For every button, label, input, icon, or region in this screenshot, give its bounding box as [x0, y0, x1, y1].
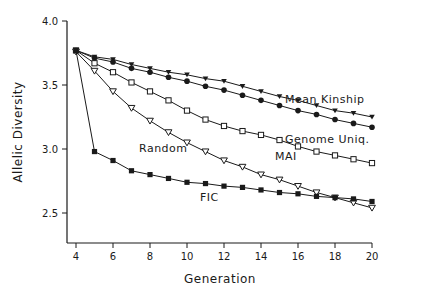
- y-axis-title: Allelic Diversity: [11, 81, 25, 182]
- series-mai: [73, 48, 374, 166]
- filled-circle-marker: [129, 66, 135, 72]
- open-triangle-marker: [165, 130, 172, 136]
- filled-square-marker: [295, 191, 300, 196]
- filled-square-marker: [258, 187, 263, 192]
- open-square-marker: [129, 80, 134, 85]
- open-square-marker: [332, 153, 337, 158]
- filled-square-marker: [332, 195, 337, 200]
- x-tick-label: 20: [366, 251, 379, 262]
- filled-triangle-marker: [369, 115, 375, 120]
- series-label-mai: MAI: [275, 150, 297, 163]
- x-tick-label: 14: [255, 251, 268, 262]
- y-tick-label: 2.5: [42, 208, 58, 219]
- filled-square-marker: [92, 149, 97, 154]
- filled-square-marker: [277, 190, 282, 195]
- filled-circle-marker: [295, 108, 301, 114]
- filled-square-marker: [129, 168, 134, 173]
- open-square-marker: [166, 98, 171, 103]
- open-square-marker: [277, 137, 282, 142]
- x-tick-label: 16: [292, 251, 305, 262]
- series-label-fic: FIC: [200, 191, 219, 204]
- filled-circle-marker: [332, 117, 338, 123]
- open-square-marker: [221, 123, 226, 128]
- filled-square-marker: [369, 199, 374, 204]
- filled-circle-marker: [369, 124, 375, 130]
- open-square-marker: [258, 132, 263, 137]
- chart-container: 2.53.03.54.0468101214161820 Mean Kinship…: [0, 0, 426, 298]
- y-tick-label: 3.5: [42, 80, 58, 91]
- filled-circle-marker: [351, 121, 357, 127]
- series-genome-uniq: [73, 48, 375, 130]
- open-square-marker: [184, 108, 189, 113]
- series-label-genome-uniq: Genome Uniq.: [285, 133, 370, 146]
- open-square-marker: [147, 89, 152, 94]
- filled-circle-marker: [184, 78, 190, 84]
- filled-circle-marker: [314, 112, 320, 118]
- filled-circle-marker: [240, 92, 246, 98]
- filled-circle-marker: [277, 103, 283, 109]
- open-square-marker: [369, 160, 374, 165]
- series-mean-kinship: [73, 48, 375, 119]
- open-square-marker: [203, 117, 208, 122]
- filled-circle-marker: [258, 98, 264, 104]
- line-chart: 2.53.03.54.0468101214161820 Mean Kinship…: [0, 0, 426, 298]
- open-square-marker: [240, 128, 245, 133]
- filled-circle-marker: [110, 59, 116, 65]
- open-square-marker: [351, 157, 356, 162]
- open-triangle-marker: [202, 149, 209, 155]
- filled-square-marker: [203, 181, 208, 186]
- filled-square-marker: [221, 184, 226, 189]
- filled-circle-marker: [203, 83, 209, 89]
- x-tick-label: 12: [218, 251, 231, 262]
- series-label-mean-kinship: Mean Kinship: [285, 93, 364, 106]
- filled-square-marker: [351, 196, 356, 201]
- filled-square-marker: [110, 158, 115, 163]
- filled-square-marker: [314, 194, 319, 199]
- open-triangle-marker: [239, 164, 246, 170]
- filled-square-marker: [184, 180, 189, 185]
- x-tick-label: 8: [147, 251, 153, 262]
- series-line: [76, 50, 372, 163]
- filled-circle-marker: [166, 75, 172, 81]
- open-square-marker: [314, 149, 319, 154]
- open-square-marker: [92, 61, 97, 66]
- filled-square-marker: [73, 48, 78, 53]
- x-tick-label: 6: [110, 251, 116, 262]
- filled-circle-marker: [221, 87, 227, 93]
- x-axis-title: Generation: [184, 272, 256, 286]
- x-tick-label: 18: [329, 251, 342, 262]
- filled-square-marker: [240, 185, 245, 190]
- filled-square-marker: [166, 176, 171, 181]
- x-tick-label: 4: [73, 251, 79, 262]
- y-tick-label: 4.0: [42, 16, 58, 27]
- y-tick-label: 3.0: [42, 144, 58, 155]
- series-label-random: Random: [139, 142, 188, 155]
- filled-circle-marker: [92, 55, 98, 61]
- filled-square-marker: [147, 172, 152, 177]
- x-tick-label: 10: [181, 251, 194, 262]
- series-layer: [73, 48, 376, 211]
- open-triangle-marker: [147, 118, 154, 124]
- open-square-marker: [110, 70, 115, 75]
- filled-circle-marker: [147, 69, 153, 75]
- open-triangle-marker: [369, 205, 376, 211]
- open-triangle-marker: [128, 105, 135, 111]
